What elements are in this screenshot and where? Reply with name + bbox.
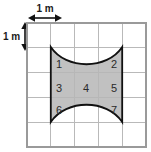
horizontal-arrow-head-left-icon: [28, 14, 35, 21]
cell-number-3: 3: [56, 82, 62, 94]
cell-number-2: 2: [111, 58, 117, 70]
cell-number-7: 7: [111, 104, 117, 116]
vertical-dimension-annotation: 1 m: [3, 22, 29, 51]
cell-number-4: 4: [83, 82, 89, 94]
horizontal-dimension-annotation: 1 m: [28, 3, 62, 22]
vertical-dimension-label: 1 m: [3, 31, 20, 42]
grid-figure-svg: 1 m 1 m: [0, 0, 151, 152]
cell-number-1: 1: [56, 58, 62, 70]
cell-number-6: 6: [56, 104, 62, 116]
cell-number-5: 5: [111, 82, 117, 94]
figure-container: 1 m 1 m: [0, 0, 151, 152]
horizontal-dimension-label: 1 m: [36, 3, 53, 14]
horizontal-arrow-head-right-icon: [55, 14, 62, 21]
